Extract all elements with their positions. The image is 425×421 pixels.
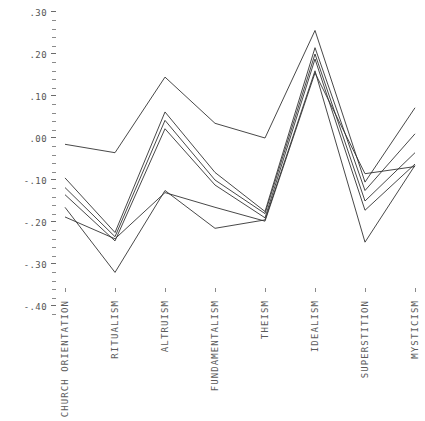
x-axis-tick-label: MYSTICISM xyxy=(407,300,423,359)
x-axis-category: IDEALISM xyxy=(307,288,323,356)
x-axis-tick-label: FUNDAMENTALISM xyxy=(207,300,223,391)
x-axis-category: RITUALISM xyxy=(107,288,123,363)
x-axis-tick-mark xyxy=(165,288,166,292)
x-axis-tick-label: IDEALISM xyxy=(307,300,323,352)
x-axis-tick-mark xyxy=(215,288,216,292)
plot-area xyxy=(0,0,425,320)
x-axis-tick-label: ALTRUISM xyxy=(157,300,173,352)
x-axis-tick-mark xyxy=(365,288,366,292)
x-axis-category: CHURCH ORIENTATION xyxy=(57,288,73,421)
series-line xyxy=(65,59,415,241)
x-axis-category: SUPERSTITION xyxy=(357,288,373,382)
series-line xyxy=(65,73,415,239)
x-axis-tick-mark xyxy=(415,288,416,292)
x-axis-tick-label: THEISM xyxy=(257,300,273,339)
series-line xyxy=(65,54,415,237)
x-axis-category: ALTRUISM xyxy=(157,288,173,356)
series-line xyxy=(65,30,415,182)
series-line xyxy=(65,71,415,273)
x-axis-tick-mark xyxy=(65,288,66,292)
x-axis-tick-label: SUPERSTITION xyxy=(357,300,373,378)
x-axis-tick-mark xyxy=(115,288,116,292)
x-axis: CHURCH ORIENTATIONRITUALISMALTRUISMFUNDA… xyxy=(0,288,425,421)
parallel-coordinates-chart: .30.20.10.00-.10-.20-.30-.40 CHURCH ORIE… xyxy=(0,0,425,421)
x-axis-tick-mark xyxy=(265,288,266,292)
x-axis-category: MYSTICISM xyxy=(407,288,423,363)
x-axis-category: FUNDAMENTALISM xyxy=(207,288,223,395)
series-canvas xyxy=(0,0,425,320)
x-axis-tick-mark xyxy=(315,288,316,292)
x-axis-tick-label: RITUALISM xyxy=(107,300,123,359)
x-axis-category: THEISM xyxy=(257,288,273,343)
series-line xyxy=(65,48,415,233)
x-axis-tick-label: CHURCH ORIENTATION xyxy=(57,300,73,417)
